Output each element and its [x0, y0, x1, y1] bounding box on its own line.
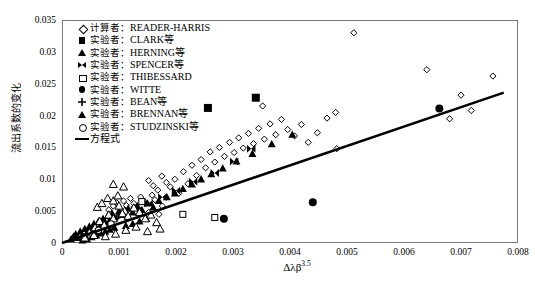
legend-label: 实验者：STUDZINSKI等 [90, 121, 199, 133]
legend-label: 实验者：CLARK等 [90, 34, 174, 46]
x-axis-title-base: Δλβ [283, 261, 301, 273]
data-point [180, 211, 186, 217]
data-point [219, 164, 227, 171]
data-point [139, 199, 145, 205]
legend-label: 计算者：READER-HARRIS [90, 22, 210, 34]
legend-item: 实验者：CLARK等 [74, 34, 289, 46]
legend-item: 实验者：SPENCER等 [74, 59, 289, 71]
data-point [172, 176, 178, 182]
legend-label: 实验者：BRENNAN等 [90, 108, 188, 120]
x-tick-label: 0.002 [151, 247, 201, 257]
y-tick-label: 0.035 [10, 15, 56, 25]
data-point [120, 183, 128, 190]
legend-label: 实验者：THIBESSARD [90, 71, 192, 83]
data-point [158, 193, 166, 201]
data-point [221, 153, 227, 159]
y-axis-title: 流出系数的变化 [8, 78, 23, 158]
y-tick-label: 0.03 [10, 47, 56, 57]
x-tick-label: 0.004 [265, 247, 315, 257]
y-tick-label: 0.005 [10, 206, 56, 216]
symbol-glyph [78, 49, 86, 56]
symbol-glyph [75, 138, 89, 140]
data-point [146, 177, 152, 183]
legend-item: 实验者：WITTE [74, 83, 289, 95]
data-point [156, 211, 162, 217]
data-point [424, 67, 430, 73]
legend-item: 计算者：READER-HARRIS [74, 22, 289, 34]
data-point [114, 192, 122, 199]
data-point [144, 227, 152, 234]
x-tick-label: 0 [37, 247, 87, 257]
data-point [109, 180, 117, 187]
x-axis-title: Δλβ3.5 [242, 259, 352, 273]
circle-filled-icon [74, 84, 90, 96]
x-axis-title-exponent: 3.5 [301, 259, 310, 268]
data-point [212, 159, 218, 165]
data-point [127, 195, 133, 201]
symbol-glyph [78, 24, 88, 34]
data-point [240, 145, 246, 151]
data-point [314, 130, 320, 136]
symbol-glyph [79, 37, 86, 44]
data-point [220, 215, 228, 223]
data-point [333, 109, 339, 115]
x-tick-label: 0.005 [322, 247, 372, 257]
x-tick-label: 0.003 [208, 247, 258, 257]
plus-icon [74, 96, 90, 108]
data-point [159, 173, 165, 179]
square-filled-icon [74, 34, 90, 46]
circle-open-icon [74, 121, 90, 133]
triangle-filled-icon [74, 47, 90, 59]
data-point [231, 149, 237, 155]
data-point [163, 179, 169, 185]
x-tick-label: 0.007 [436, 247, 486, 257]
data-point [216, 144, 222, 150]
legend-item: 实验者：STUDZINSKI等 [74, 120, 289, 132]
x-tick-label: 0.001 [94, 247, 144, 257]
data-point [305, 139, 311, 145]
data-point [298, 121, 304, 127]
data-point [468, 107, 474, 113]
legend-item: 实验者：THIBESSARD [74, 71, 289, 83]
data-point [150, 183, 156, 189]
legend-item: 方程式 [74, 133, 289, 145]
data-point [193, 172, 199, 178]
line-icon [74, 133, 90, 145]
triangle-open-icon [74, 108, 90, 120]
data-point [198, 156, 204, 162]
data-point [351, 30, 357, 36]
bowtie-filled-icon [74, 59, 90, 71]
data-point [153, 218, 161, 225]
x-tick-label: 0.006 [379, 247, 429, 257]
data-point [211, 169, 219, 177]
square-open-icon [74, 71, 90, 83]
legend-item: 实验者：BEAN等 [74, 96, 289, 108]
x-tick-label: 0.008 [493, 247, 535, 257]
data-point [203, 165, 209, 171]
symbol-glyph [78, 111, 86, 118]
legend-item: 实验者：HERNING等 [74, 47, 289, 59]
data-point [207, 149, 213, 155]
chart-root: 00.0050.010.0150.020.0250.030.035 00.001… [0, 0, 535, 284]
data-point [458, 92, 464, 98]
diamond-open-icon [74, 22, 90, 34]
data-point [155, 187, 161, 193]
legend-label: 实验者：SPENCER等 [90, 59, 184, 71]
legend-label: 实验者：BEAN等 [90, 96, 167, 108]
legend-label: 实验者：WITTE [90, 84, 161, 96]
symbol-glyph [79, 86, 86, 93]
legend-label: 实验者：HERNING等 [90, 47, 185, 59]
symbol-glyph [79, 75, 87, 83]
data-point [309, 198, 317, 206]
data-point [447, 116, 453, 122]
y-tick-label: 0.01 [10, 174, 56, 184]
legend-item: 实验者：BRENNAN等 [74, 108, 289, 120]
data-point [189, 162, 195, 168]
data-point [104, 194, 112, 201]
legend-label: 方程式 [90, 133, 120, 145]
data-point [435, 105, 443, 113]
legend: 计算者：READER-HARRIS实验者：CLARK等实验者：HERNING等实… [74, 22, 289, 145]
data-point [247, 145, 255, 153]
data-point [212, 215, 218, 221]
data-point [180, 169, 186, 175]
